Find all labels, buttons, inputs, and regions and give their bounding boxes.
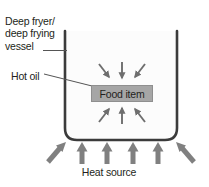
vessel-label: Deep fryer/ deep frying vessel bbox=[5, 15, 71, 52]
food-item-box: Food item bbox=[91, 85, 153, 102]
heat-arrow-4 bbox=[153, 142, 164, 164]
heat-arrow-1 bbox=[77, 142, 88, 164]
vessel-label-line3: vessel bbox=[5, 40, 71, 52]
vessel-label-line2: deep frying bbox=[5, 27, 71, 39]
heat-source-label: Heat source bbox=[54, 166, 164, 178]
hot-oil-label: Hot oil bbox=[11, 70, 39, 82]
heat-arrow-outer-right bbox=[176, 142, 194, 162]
heat-arrow-2 bbox=[102, 142, 113, 164]
heat-arrow-3 bbox=[128, 142, 139, 164]
heat-arrow-outer-left bbox=[48, 142, 66, 162]
deep-frying-diagram: Deep fryer/ deep frying vessel Hot oil F… bbox=[0, 0, 209, 187]
vessel-label-line1: Deep fryer/ bbox=[5, 15, 71, 27]
